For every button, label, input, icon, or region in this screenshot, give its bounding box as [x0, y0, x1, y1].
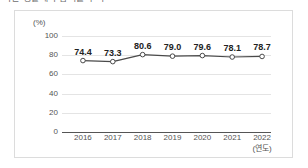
line-chart-plot: (%) 020406080100 74.473.380.679.079.678.…: [15, 11, 294, 159]
page-title: 국민 생활체육 참여율 추이: [3, 0, 104, 4]
x-axis-tick-label: 2022: [242, 133, 282, 142]
data-point-label: 78.7: [240, 43, 284, 52]
data-point-marker: [110, 59, 115, 64]
data-point-marker: [170, 54, 175, 59]
chart-card: (%) 020406080100 74.473.380.679.079.678.…: [14, 10, 293, 158]
data-point-marker: [140, 52, 145, 57]
data-point-marker: [200, 53, 205, 58]
data-point-marker: [230, 55, 235, 60]
chart-title-strip: 국민 생활체육 참여율 추이: [0, 0, 308, 7]
data-point-marker: [81, 58, 86, 63]
x-axis-unit-label: (연도): [240, 144, 284, 153]
data-point-marker: [260, 54, 265, 59]
